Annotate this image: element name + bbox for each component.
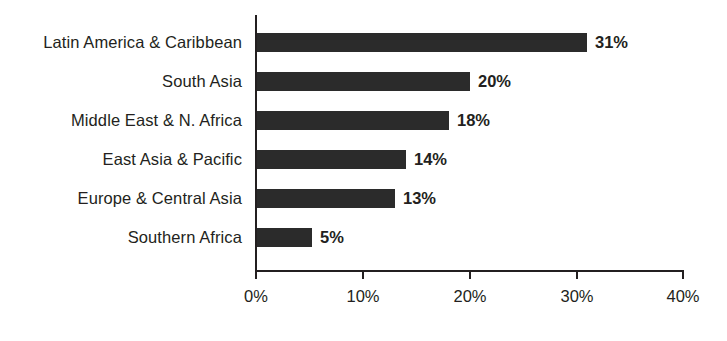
bar (257, 150, 406, 169)
bar-value-label: 5% (320, 228, 344, 247)
x-axis-tick-label: 30% (542, 287, 612, 306)
category-axis-labels: Latin America & Caribbean South Asia Mid… (0, 15, 250, 270)
bar-chart: Latin America & Caribbean South Asia Mid… (0, 0, 727, 341)
x-axis-tick-label: 10% (328, 287, 398, 306)
bar-value-label: 31% (595, 33, 628, 52)
category-label: South Asia (0, 72, 242, 91)
category-label: Latin America & Caribbean (0, 33, 242, 52)
category-label: Europe & Central Asia (0, 189, 242, 208)
x-axis-tick-label: 0% (221, 287, 291, 306)
x-axis-tick (682, 270, 684, 279)
bar (257, 33, 587, 52)
bar (257, 72, 470, 91)
bar-value-label: 14% (414, 150, 447, 169)
bar (257, 228, 312, 247)
x-axis-tick (362, 270, 364, 279)
category-label: Southern Africa (0, 228, 242, 247)
plot-area: 0% 10% 20% 30% 40% 31% 20% 18% 14% 13% 5… (257, 15, 683, 270)
bar-value-label: 18% (457, 111, 490, 130)
x-axis-tick (469, 270, 471, 279)
category-label: East Asia & Pacific (0, 150, 242, 169)
x-axis-tick-label: 40% (648, 287, 718, 306)
bar (257, 111, 449, 130)
x-axis-tick (576, 270, 578, 279)
bar-value-label: 20% (478, 72, 511, 91)
bar-value-label: 13% (403, 189, 436, 208)
category-label: Middle East & N. Africa (0, 111, 242, 130)
bar (257, 189, 395, 208)
x-axis-tick-label: 20% (435, 287, 505, 306)
x-axis-tick (255, 270, 257, 279)
